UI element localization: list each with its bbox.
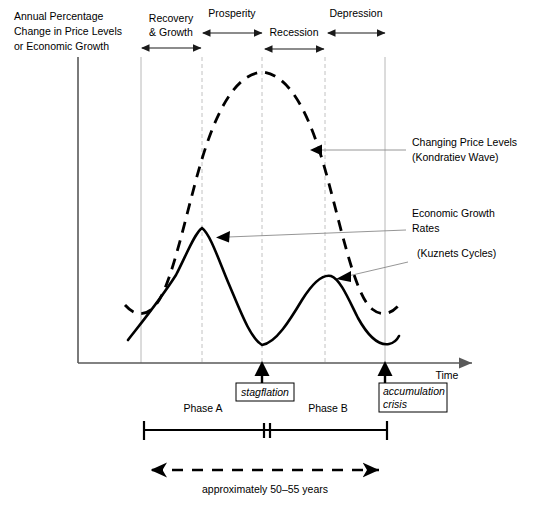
phase-label-recession: Recession	[269, 26, 318, 38]
gridlines	[141, 57, 385, 363]
phase-arrow-recovery-growth: Recovery & Growth	[142, 12, 201, 48]
phase-label-recovery-line-2: & Growth	[149, 26, 193, 38]
duration-span-label: approximately 50–55 years	[202, 483, 328, 495]
y-axis-label-line-1: Annual Percentage	[14, 10, 103, 22]
phase-arrow-recession: Recession	[265, 26, 324, 49]
phase-arrow-depression: Depression	[328, 7, 385, 33]
kuznets-rates-annotation-line-1: Economic Growth	[412, 207, 495, 219]
y-axis-label-line-2: Change in Price Levels	[14, 25, 122, 37]
kondratiev-annotation: Changing Price Levels (Kondratiev Wave)	[310, 136, 517, 163]
kuznets-rates-leader-arrow	[216, 231, 230, 243]
phase-bar: Phase A Phase B	[144, 402, 387, 440]
accumulation-crisis-line-2: crisis	[383, 398, 408, 410]
kuznets-rates-annotation: Economic Growth Rates	[216, 207, 495, 243]
stagflation-label: stagflation	[241, 386, 289, 398]
kuznets-cycles-curve	[128, 228, 399, 345]
phase-arrow-prosperity: Prosperity	[203, 7, 262, 33]
kuznets-rates-leader-line	[228, 230, 406, 237]
axes: Time	[78, 57, 472, 381]
kuznets-cycles-leader-line	[348, 262, 408, 276]
phase-label-recovery-line-1: Recovery	[149, 12, 194, 24]
diagram-canvas: Annual Percentage Change in Price Levels…	[0, 0, 538, 508]
phase-a-label: Phase A	[183, 402, 222, 414]
annotations: Changing Price Levels (Kondratiev Wave) …	[216, 136, 517, 282]
kuznets-cycles-annotation-line-1: (Kuznets Cycles)	[417, 247, 496, 259]
kondratiev-leader-arrow	[310, 145, 322, 156]
x-axis-label: Time	[436, 369, 459, 381]
stagflation-event: stagflation	[236, 361, 294, 401]
kondratiev-annotation-line-1: Changing Price Levels	[412, 136, 517, 148]
phase-b-label: Phase B	[308, 402, 348, 414]
duration-span: approximately 50–55 years	[152, 470, 379, 495]
phase-label-depression: Depression	[329, 7, 382, 19]
phase-label-prosperity: Prosperity	[208, 7, 256, 19]
y-axis-label-line-3: or Economic Growth	[14, 40, 109, 52]
kondratiev-annotation-line-2: (Kondratiev Wave)	[412, 151, 499, 163]
accumulation-crisis-line-1: accumulation	[383, 385, 445, 397]
y-axis-label: Annual Percentage Change in Price Levels…	[14, 10, 122, 52]
kuznets-cycles-annotation: (Kuznets Cycles)	[336, 247, 496, 282]
kondratiev-wave-diagram: Annual Percentage Change in Price Levels…	[0, 0, 538, 508]
phase-period-arrows: Recovery & Growth Prosperity Recession D…	[142, 7, 385, 49]
kuznets-rates-annotation-line-2: Rates	[412, 222, 439, 234]
